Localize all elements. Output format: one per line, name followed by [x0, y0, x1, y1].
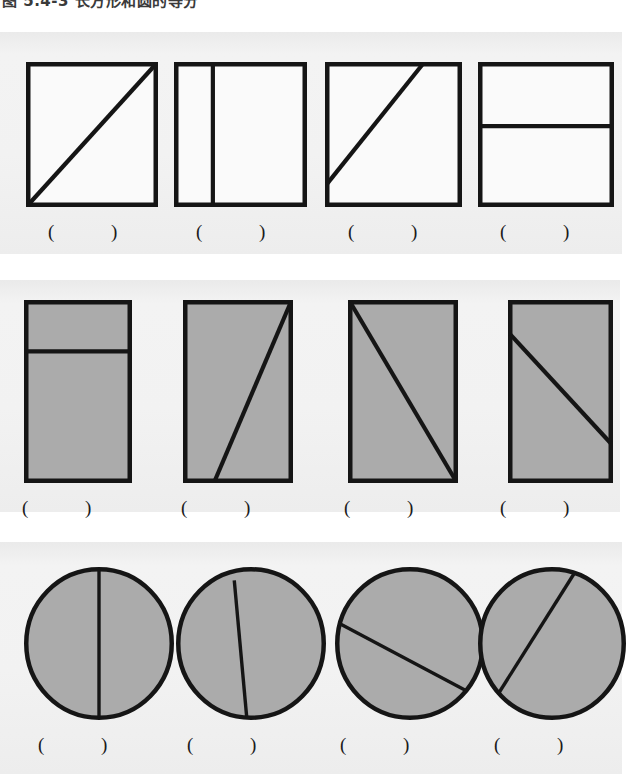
shaded-circle-with-vertical-diameter [24, 567, 174, 720]
shaded-circle-with-ascending-chord [478, 567, 626, 720]
shape-row-rectangles-shaded: ( )( )( )( ) [0, 280, 620, 512]
shape-row-rectangles-unfilled: ( )( )( )( ) [0, 32, 622, 254]
answer-blank[interactable]: ( ) [348, 221, 443, 243]
answer-blank[interactable]: ( ) [500, 221, 595, 243]
answer-blank[interactable]: ( ) [340, 734, 435, 756]
figure-caption: 图 5.4-3 长方形和圆的等分 [2, 0, 199, 10]
shaded-circle-with-descending-chord [335, 567, 485, 720]
square-with-offset-diagonal [325, 62, 462, 207]
answer-blank[interactable]: ( ) [500, 497, 595, 519]
rectangle-with-horizontal-line-upper [478, 62, 614, 207]
exercise-panel-row-1: ( )( )( )( ) [0, 32, 622, 254]
answer-blank[interactable]: ( ) [181, 497, 276, 519]
exercise-panel-row-3: ( )( )( )( ) [0, 542, 622, 774]
figure-caption-strip: 图 5.4-3 长方形和圆的等分 [0, 0, 638, 14]
shaded-circle-with-near-vertical-chord [176, 567, 326, 720]
answer-blank[interactable]: ( ) [187, 734, 282, 756]
answer-blank[interactable]: ( ) [48, 221, 143, 243]
exercise-panel-row-2: ( )( )( )( ) [0, 280, 620, 512]
shaded-rectangle-with-offset-diagonal [508, 300, 613, 483]
shaded-rectangle-with-corner-to-corner-diagonal [348, 300, 458, 483]
square-with-diagonal-bottom-left-to-top-right [26, 62, 158, 207]
shaded-rectangle-with-diagonal-to-top-right-corner [183, 300, 293, 483]
shape-row-circles-shaded: ( )( )( )( ) [0, 542, 622, 774]
answer-blank[interactable]: ( ) [22, 497, 117, 519]
answer-blank[interactable]: ( ) [494, 734, 589, 756]
shaded-rectangle-with-horizontal-line-near-top [24, 300, 132, 483]
answer-blank[interactable]: ( ) [196, 221, 291, 243]
answer-blank[interactable]: ( ) [344, 497, 439, 519]
answer-blank[interactable]: ( ) [38, 734, 133, 756]
square-with-vertical-line-at-one-quarter [174, 62, 307, 207]
